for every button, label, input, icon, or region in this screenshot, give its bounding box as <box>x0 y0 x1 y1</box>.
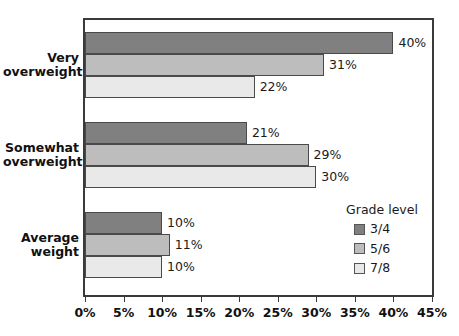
x-axis-tick-label: 45% <box>417 305 447 320</box>
bar-very-overweight-5-6 <box>85 54 324 76</box>
x-axis-tick-label: 10% <box>147 305 177 320</box>
bar-value-label: 40% <box>398 37 426 50</box>
bar-very-overweight-3-4 <box>85 32 393 54</box>
x-axis-tick-label: 25% <box>263 305 293 320</box>
legend-label: 7/8 <box>370 262 390 275</box>
x-axis-tick-label: 35% <box>340 305 370 320</box>
bar-somewhat-overweight-7-8 <box>85 166 316 188</box>
bar-value-label: 31% <box>329 59 357 72</box>
bar-value-label: 10% <box>167 261 195 274</box>
x-axis-tick-label: 20% <box>224 305 254 320</box>
legend-swatch-icon <box>354 263 365 274</box>
legend-title: Grade level <box>336 202 428 217</box>
legend-entry-7-8: 7/8 <box>354 262 428 275</box>
bar-value-label: 10% <box>167 217 195 230</box>
bar-chart: Veryoverweight Somewhatoverweight Averag… <box>0 0 459 336</box>
category-label-somewhat-overweight: Somewhatoverweight <box>3 141 79 169</box>
bar-value-label: 11% <box>175 239 203 252</box>
legend-swatch-icon <box>354 243 365 254</box>
x-axis-tick-label: 5% <box>113 305 134 320</box>
legend-swatch-icon <box>354 224 365 235</box>
bar-value-label: 29% <box>314 149 342 162</box>
bar-value-label: 30% <box>321 171 349 184</box>
x-axis-tick-label: 30% <box>301 305 331 320</box>
legend-label: 5/6 <box>370 243 390 256</box>
bar-average-weight-7-8 <box>85 256 162 278</box>
bar-value-label: 22% <box>260 81 288 94</box>
bar-somewhat-overweight-5-6 <box>85 144 309 166</box>
x-axis-tick-label: 0% <box>74 305 95 320</box>
x-axis-tick-label: 15% <box>186 305 216 320</box>
x-axis-tick-labels: 0%5%10%15%20%25%30%35%40%45% <box>83 297 434 327</box>
category-axis-labels: Veryoverweight Somewhatoverweight Averag… <box>0 0 79 336</box>
bar-somewhat-overweight-3-4 <box>85 122 247 144</box>
bar-value-label: 21% <box>252 127 280 140</box>
legend-label: 3/4 <box>370 223 390 236</box>
legend-entry-3-4: 3/4 <box>354 223 428 236</box>
category-label-very-overweight: Veryoverweight <box>3 51 79 79</box>
legend-entry-5-6: 5/6 <box>354 243 428 256</box>
bar-very-overweight-7-8 <box>85 76 255 98</box>
x-axis-tick-label: 40% <box>378 305 408 320</box>
bar-average-weight-3-4 <box>85 212 162 234</box>
bar-average-weight-5-6 <box>85 234 170 256</box>
legend-entries: 3/45/67/8 <box>336 223 428 275</box>
legend: Grade level 3/45/67/8 <box>336 202 428 282</box>
category-label-average-weight: Averageweight <box>3 231 79 259</box>
